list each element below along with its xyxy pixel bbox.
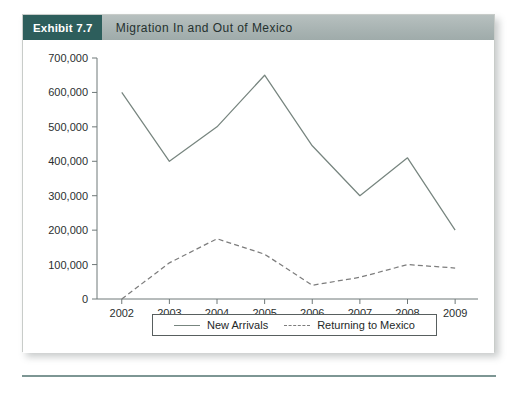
legend-item-new-arrivals: New Arrivals xyxy=(174,319,268,331)
legend-label-new-arrivals: New Arrivals xyxy=(207,319,268,331)
chart-legend: New Arrivals Returning to Mexico xyxy=(152,314,437,336)
y-axis-tick-label: 0 xyxy=(82,293,88,305)
y-axis-tick-label: 100,000 xyxy=(48,259,88,271)
y-axis-tick-label: 700,000 xyxy=(48,52,88,64)
chart-series-group xyxy=(122,75,455,299)
legend-label-returning-to-mexico: Returning to Mexico xyxy=(317,319,415,331)
x-axis-tick-label: 2009 xyxy=(443,307,467,319)
exhibit-badge: Exhibit 7.7 xyxy=(23,15,102,40)
chart-plot-area: 0100,000200,000300,000400,000500,000600,… xyxy=(23,40,494,353)
line-chart: 0100,000200,000300,000400,000500,000600,… xyxy=(23,40,494,353)
legend-line-dashed-icon xyxy=(284,325,310,326)
x-axis-tick-label: 2002 xyxy=(110,307,134,319)
legend-item-returning-to-mexico: Returning to Mexico xyxy=(284,319,415,331)
y-axis-tick-label: 200,000 xyxy=(48,224,88,236)
exhibit-title: Migration In and Out of Mexico xyxy=(102,15,293,40)
series-line-returning-to-mexico xyxy=(122,239,455,299)
y-axis-tick-label: 600,000 xyxy=(48,86,88,98)
y-axis-tick-label: 400,000 xyxy=(48,155,88,167)
y-axis-tick-label: 500,000 xyxy=(48,121,88,133)
exhibit-panel: Exhibit 7.7 Migration In and Out of Mexi… xyxy=(22,14,495,352)
exhibit-header: Exhibit 7.7 Migration In and Out of Mexi… xyxy=(23,15,494,40)
y-axis: 0100,000200,000300,000400,000500,000600,… xyxy=(48,52,97,305)
legend-line-solid-icon xyxy=(174,325,200,326)
series-line-new-arrivals xyxy=(122,75,455,230)
y-axis-tick-label: 300,000 xyxy=(48,190,88,202)
bottom-divider xyxy=(22,375,496,377)
